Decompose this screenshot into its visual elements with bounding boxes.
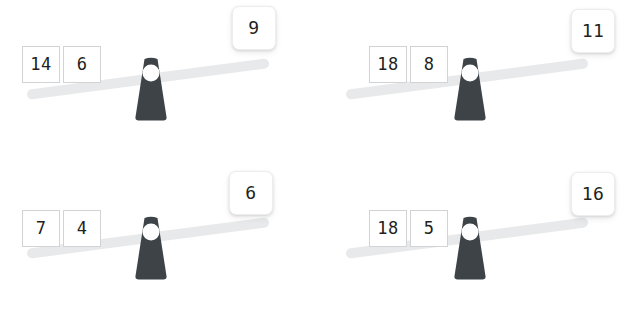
fulcrum-icon <box>452 57 488 122</box>
weight-tile[interactable]: 11 <box>571 9 615 53</box>
balance-panel-bottom-left: 7 4 6 <box>0 159 318 318</box>
balance-panel-top-left: 14 6 9 <box>0 0 318 159</box>
fulcrum-icon <box>133 216 169 281</box>
weight-tile[interactable]: 18 <box>369 46 407 83</box>
fulcrum-icon <box>133 57 169 122</box>
weight-tile[interactable]: 6 <box>229 171 273 215</box>
weight-tile[interactable]: 4 <box>63 210 101 247</box>
balance-puzzle-board: 14 6 9 18 8 11 7 4 6 <box>0 0 637 318</box>
weight-tile[interactable]: 16 <box>571 172 615 216</box>
weight-tile[interactable]: 14 <box>22 46 60 83</box>
weight-tile[interactable]: 6 <box>63 46 101 83</box>
weight-tile[interactable]: 18 <box>369 210 407 247</box>
balance-panel-top-right: 18 8 11 <box>319 0 637 159</box>
fulcrum-icon <box>452 216 488 281</box>
weight-tile[interactable]: 8 <box>410 46 448 83</box>
weight-tile[interactable]: 5 <box>410 210 448 247</box>
balance-panel-bottom-right: 18 5 16 <box>319 159 637 318</box>
weight-tile[interactable]: 9 <box>232 6 276 50</box>
weight-tile[interactable]: 7 <box>22 210 60 247</box>
